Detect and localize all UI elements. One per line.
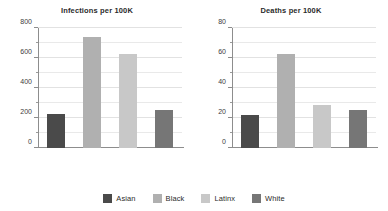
bar-white[interactable] [349,110,368,148]
gridline-minor [232,102,376,103]
y-axis-line [38,28,39,148]
bar-black[interactable] [277,54,296,149]
y-axis-tick-label: 60 [218,48,226,55]
chart-title-deaths: Deaths per 100K [194,6,388,15]
chart-panel-infections: Infections per 100K 0200400600800 [0,0,194,182]
bar-latinx[interactable] [119,54,138,149]
gridline-minor [38,42,182,43]
plot-area-infections: 0200400600800 [38,28,182,148]
gridline-major [38,87,182,88]
plot-area-deaths: 020406080 [232,28,376,148]
gridline-major [38,27,182,28]
bar-black[interactable] [83,37,102,148]
gridline-minor [38,102,182,103]
legend-swatch-icon [153,194,162,203]
bar-white[interactable] [155,110,174,148]
gridline-minor [232,72,376,73]
chart-title-infections: Infections per 100K [0,6,194,15]
y-axis-tick-label: 800 [20,18,32,25]
gridline-major [232,87,376,88]
y-axis-tick-label: 40 [218,78,226,85]
bar-asian[interactable] [47,114,66,149]
y-axis-tick-label: 400 [20,78,32,85]
y-axis-tick-label: 0 [28,138,32,145]
legend-item-latinx[interactable]: Latinx [201,194,235,203]
y-axis-tick-label: 0 [222,138,226,145]
gridline-major [38,57,182,58]
legend-swatch-icon [201,194,210,203]
legend-label: Black [166,194,185,203]
gridline-major [232,57,376,58]
y-axis-tick-label: 20 [218,108,226,115]
legend-item-asian[interactable]: Asian [103,194,135,203]
legend-label: Asian [116,194,135,203]
bar-asian[interactable] [241,115,260,148]
legend-item-black[interactable]: Black [153,194,185,203]
y-axis-tick-label: 600 [20,48,32,55]
legend-item-white[interactable]: White [252,194,285,203]
chart-legend: AsianBlackLatinxWhite [0,194,388,203]
y-axis-line [232,28,233,148]
gridline-major [232,27,376,28]
bar-latinx[interactable] [313,105,332,148]
gridline-minor [38,72,182,73]
legend-swatch-icon [103,194,112,203]
gridline-minor [232,42,376,43]
bar-chart-figure: Infections per 100K 0200400600800 Deaths… [0,0,388,211]
legend-swatch-icon [252,194,261,203]
chart-panel-deaths: Deaths per 100K 020406080 [194,0,388,182]
legend-label: Latinx [214,194,235,203]
y-axis-tick-label: 200 [20,108,32,115]
y-axis-tick-label: 80 [218,18,226,25]
legend-label: White [265,194,285,203]
